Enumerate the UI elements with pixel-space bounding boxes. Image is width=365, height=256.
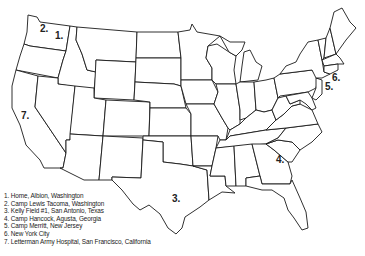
- map-marker-6: 6.: [332, 73, 340, 83]
- state-north-dakota: [136, 32, 181, 58]
- map-marker-1: 1.: [55, 31, 63, 41]
- legend-item: 1. Home, Albion, Washington: [4, 192, 151, 200]
- state-wyoming: [94, 60, 136, 100]
- map-marker-3: 3.: [172, 194, 180, 204]
- state-new-mexico: [99, 136, 143, 180]
- legend-item: 6. New York City: [4, 230, 151, 238]
- map-marker-7: 7.: [21, 111, 29, 121]
- legend-item: 4. Camp Hancock, Agusta, Georgia: [4, 215, 151, 223]
- map-marker-2: 2.: [40, 24, 48, 34]
- legend-item: 7. Letterman Army Hospital, San Francisc…: [4, 238, 151, 246]
- state-south-dakota: [135, 58, 181, 86]
- state-arizona: [60, 134, 103, 180]
- state-florida: [246, 176, 308, 230]
- state-kansas: [149, 108, 191, 136]
- legend-item: 5. Camp Merritt, New Jersey: [4, 222, 151, 230]
- legend-item: 3. Kelly Field #1, San Antonio, Texas: [4, 207, 151, 215]
- map-legend: 1. Home, Albion, Washington 2. Camp Lewi…: [4, 192, 151, 245]
- state-iowa: [181, 80, 218, 104]
- map-marker-5: 5.: [325, 82, 333, 92]
- legend-item: 2. Camp Lewis Tacoma, Washington: [4, 200, 151, 208]
- state-colorado: [103, 100, 150, 136]
- map-marker-4: 4.: [276, 155, 284, 165]
